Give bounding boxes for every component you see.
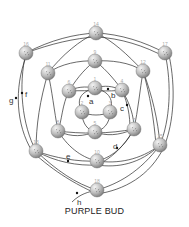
edge-label-d: d [113, 142, 117, 151]
bud-sphere-icon [62, 84, 76, 98]
node-number: 3 [109, 100, 112, 106]
node-number: 9 [94, 49, 97, 55]
node-number: 16 [23, 41, 29, 47]
edge-line [96, 37, 165, 57]
node-13: 13 [29, 139, 43, 159]
edge-label-e: e [66, 152, 71, 161]
node-6: 6 [62, 79, 76, 99]
bud-sphere-icon [88, 125, 102, 139]
node-10: 10 [90, 149, 104, 169]
node-14: 14 [89, 21, 103, 41]
node-16: 16 [19, 41, 33, 61]
node-4: 4 [115, 78, 129, 98]
edge-line [26, 33, 96, 53]
bud-sphere-icon [90, 154, 104, 168]
bud-sphere-icon [41, 66, 55, 80]
edge-line [22, 53, 36, 151]
edge-label-f: f [25, 90, 28, 99]
node-12: 12 [136, 59, 150, 79]
node-11: 11 [41, 61, 55, 81]
bud-sphere-icon [75, 105, 89, 119]
node-number: 1 [94, 76, 97, 82]
node-number: 5 [94, 120, 97, 126]
bud-sphere-icon [158, 46, 172, 60]
edge-label-a: a [89, 97, 94, 106]
bud-sphere-icon [19, 46, 33, 60]
node-1: 1 [88, 76, 102, 96]
node-number: 4 [121, 78, 124, 84]
node-number: 18 [94, 178, 100, 184]
edge-line [26, 37, 96, 53]
node-7: 7 [127, 117, 141, 137]
bud-sphere-icon [136, 64, 150, 78]
node-number: 10 [94, 149, 100, 155]
edge-line [95, 61, 143, 71]
node-number: 15 [157, 133, 163, 139]
edge-label-c: c [120, 104, 124, 113]
edge-label-g: g [9, 96, 13, 105]
node-3: 3 [103, 100, 117, 120]
edge-line [97, 145, 160, 166]
edge-line [96, 33, 165, 53]
node-8: 8 [51, 119, 65, 139]
node-18: 18 [90, 178, 104, 198]
bud-sphere-icon [90, 183, 104, 197]
bud-sphere-icon [115, 83, 129, 97]
marker-dot [107, 88, 109, 90]
bud-sphere-icon [29, 144, 43, 158]
bud-sphere-icon [127, 122, 141, 136]
diagram-title: PURPLE BUD [0, 206, 189, 216]
bud-sphere-icon [88, 54, 102, 68]
node-9: 9 [88, 49, 102, 69]
bud-sphere-icon [89, 26, 103, 40]
purple-bud-diagram: abcdefgh 123456789101112131415161718 [0, 0, 189, 227]
bud-sphere-icon [103, 105, 117, 119]
node-group: 123456789101112131415161718 [19, 21, 172, 198]
node-5: 5 [88, 120, 102, 140]
node-number: 14 [93, 21, 99, 27]
node-number: 6 [68, 79, 71, 85]
node-number: 8 [57, 119, 60, 125]
node-number: 13 [33, 139, 39, 145]
bud-sphere-icon [88, 81, 102, 95]
node-number: 7 [133, 117, 136, 123]
edge-line [96, 33, 143, 71]
marker-dot [15, 97, 17, 99]
marker-dot [21, 92, 23, 94]
edge-line [160, 53, 169, 145]
node-number: 2 [81, 100, 84, 106]
marker-dot [76, 192, 78, 194]
bud-sphere-icon [153, 138, 167, 152]
edge-line [48, 33, 96, 73]
node-number: 12 [140, 59, 146, 65]
marker-dot [126, 104, 128, 106]
node-2: 2 [75, 100, 89, 120]
node-number: 11 [45, 61, 50, 67]
bud-sphere-icon [51, 124, 65, 138]
node-number: 17 [162, 41, 168, 47]
node-17: 17 [158, 41, 172, 61]
